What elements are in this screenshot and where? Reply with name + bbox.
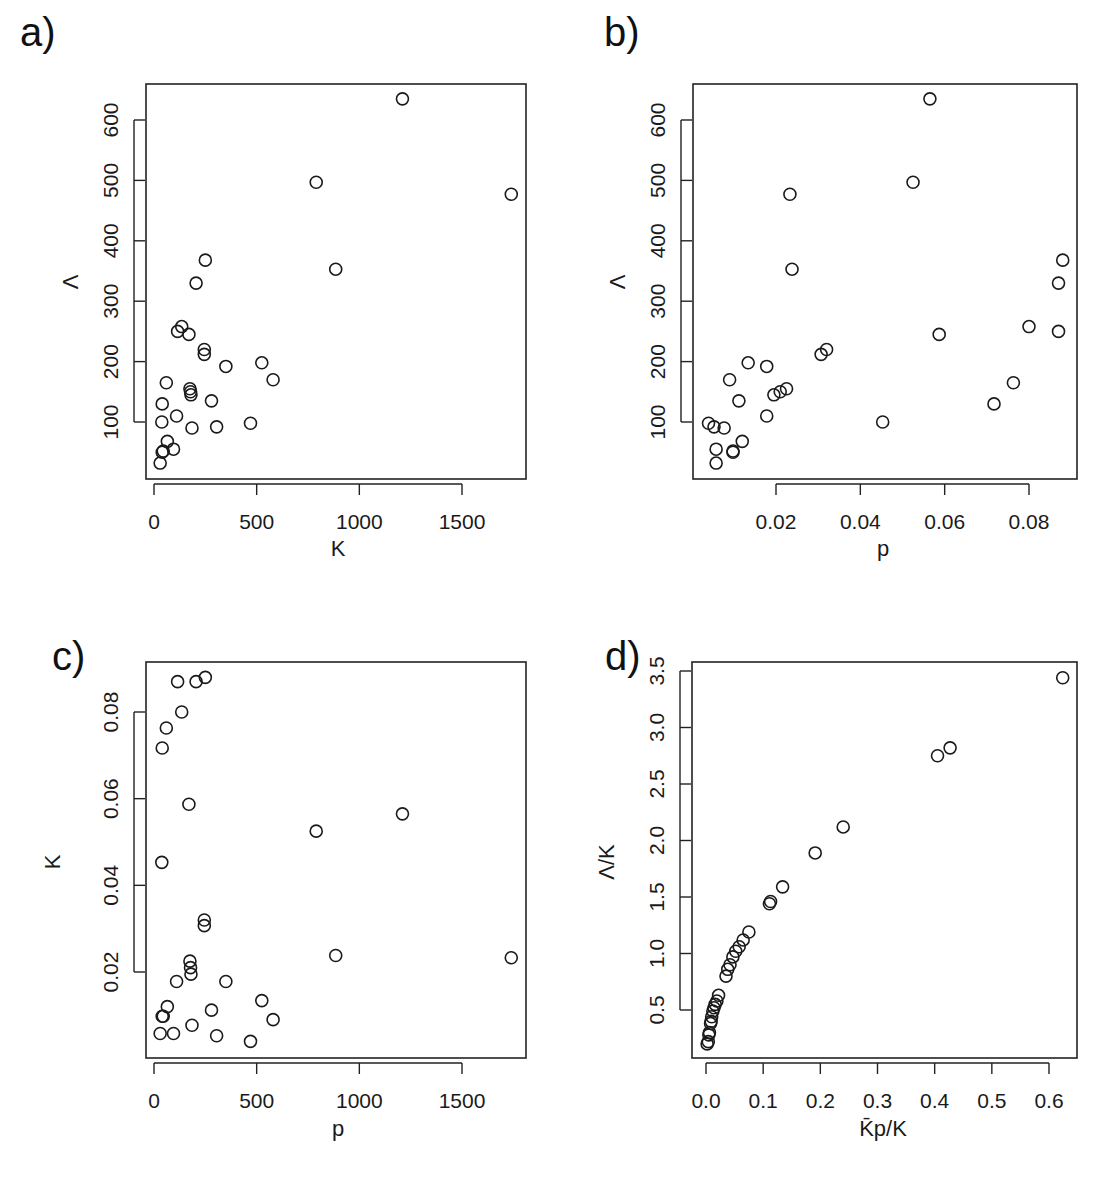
- data-point: [1053, 277, 1065, 289]
- scatter-plot-b: 0.020.040.060.08100200300400500600pΛ: [605, 84, 1077, 561]
- scatter-plot-d: 0.00.10.20.30.40.50.60.51.01.52.02.53.03…: [594, 656, 1077, 1141]
- y-tick-label: 0.06: [99, 778, 122, 819]
- data-point: [330, 950, 342, 962]
- data-point: [1007, 377, 1019, 389]
- x-tick-label: 0.0: [691, 1089, 720, 1112]
- data-point: [220, 976, 232, 988]
- data-point: [205, 395, 217, 407]
- x-tick-label: 0.5: [977, 1089, 1006, 1112]
- data-point: [724, 374, 736, 386]
- data-point: [1057, 672, 1069, 684]
- y-tick-label: 0.04: [99, 865, 122, 906]
- y-axis-label: Λ/K: [594, 844, 619, 880]
- data-point: [183, 328, 195, 340]
- x-axis-label: K: [331, 536, 346, 561]
- data-point: [733, 395, 745, 407]
- data-point: [245, 417, 257, 429]
- data-point: [310, 176, 322, 188]
- data-point: [154, 457, 166, 469]
- data-point: [156, 398, 168, 410]
- x-axis-label: p: [877, 536, 889, 561]
- data-point: [256, 995, 268, 1007]
- data-point: [777, 881, 789, 893]
- data-point: [154, 1028, 166, 1040]
- x-tick-label: 0.04: [840, 510, 881, 533]
- data-point: [156, 856, 168, 868]
- data-point: [205, 1004, 217, 1016]
- y-tick-label: 0.5: [645, 995, 668, 1024]
- x-axis-label: p: [332, 1116, 344, 1141]
- y-tick-label: 0.08: [99, 692, 122, 733]
- data-point: [988, 398, 1000, 410]
- data-point: [710, 457, 722, 469]
- data-point: [176, 706, 188, 718]
- data-point: [761, 360, 773, 372]
- plot-frame: [693, 84, 1077, 479]
- data-point: [742, 357, 754, 369]
- data-point: [199, 254, 211, 266]
- y-tick-label: 2.0: [645, 826, 668, 855]
- data-point: [877, 416, 889, 428]
- data-point: [720, 970, 732, 982]
- x-tick-label: 0.4: [920, 1089, 950, 1112]
- y-tick-label: 2.5: [645, 769, 668, 798]
- x-tick-label: 0: [148, 510, 160, 533]
- y-tick-label: 3.0: [645, 713, 668, 742]
- data-point: [186, 1019, 198, 1031]
- x-tick-label: 0.08: [1009, 510, 1050, 533]
- data-point: [1023, 321, 1035, 333]
- x-tick-label: 0.3: [863, 1089, 892, 1112]
- data-point: [160, 377, 172, 389]
- x-tick-label: 500: [239, 510, 274, 533]
- data-point: [743, 926, 755, 938]
- data-point: [256, 357, 268, 369]
- data-point: [924, 93, 936, 105]
- data-point: [932, 750, 944, 762]
- y-tick-label: 300: [646, 284, 669, 319]
- data-point: [933, 328, 945, 340]
- data-point: [837, 821, 849, 833]
- y-tick-label: 500: [99, 163, 122, 198]
- data-point: [156, 416, 168, 428]
- data-point: [310, 825, 322, 837]
- y-tick-label: 600: [646, 102, 669, 137]
- figure-canvas: 050010001500100200300400500600KΛ 0.020.0…: [0, 0, 1116, 1197]
- plot-frame: [692, 662, 1077, 1058]
- data-point: [784, 188, 796, 200]
- x-tick-label: 0.02: [756, 510, 797, 533]
- data-point: [809, 847, 821, 859]
- data-point: [907, 176, 919, 188]
- data-point: [172, 676, 184, 688]
- y-axis-label: Λ: [58, 274, 83, 289]
- scatter-plot-a: 050010001500100200300400500600KΛ: [58, 84, 526, 561]
- y-tick-label: 500: [646, 163, 669, 198]
- data-point: [220, 360, 232, 372]
- data-point: [245, 1035, 257, 1047]
- data-point: [156, 742, 168, 754]
- data-point: [1053, 325, 1065, 337]
- x-tick-label: 1500: [439, 510, 486, 533]
- data-point: [505, 188, 517, 200]
- x-tick-label: 1500: [439, 1089, 486, 1112]
- data-point: [186, 422, 198, 434]
- data-point: [267, 1014, 279, 1026]
- x-axis-label: K̄p/K: [859, 1116, 907, 1141]
- x-tick-label: 0.6: [1034, 1089, 1063, 1112]
- data-point: [1057, 254, 1069, 266]
- y-tick-label: 400: [99, 223, 122, 258]
- data-point: [944, 742, 956, 754]
- y-tick-label: 600: [99, 102, 122, 137]
- y-tick-label: 300: [99, 284, 122, 319]
- y-tick-label: 200: [646, 344, 669, 379]
- x-tick-label: 1000: [336, 510, 383, 533]
- data-point: [736, 435, 748, 447]
- plot-frame: [146, 84, 526, 479]
- data-point: [267, 374, 279, 386]
- data-point: [396, 93, 408, 105]
- x-tick-label: 0: [148, 1089, 160, 1112]
- y-tick-label: 400: [646, 223, 669, 258]
- y-tick-label: 1.0: [645, 939, 668, 968]
- data-point: [505, 952, 517, 964]
- x-tick-label: 1000: [336, 1089, 383, 1112]
- data-point: [786, 263, 798, 275]
